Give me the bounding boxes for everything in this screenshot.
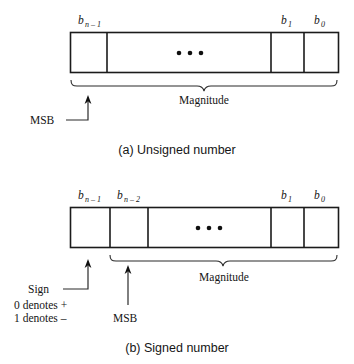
msb-pointer-signed: [125, 265, 132, 305]
bit-label-signed-b1-subscript: 1: [288, 195, 292, 204]
ellipsis-dot-signed-2: [207, 226, 212, 231]
bit-label-group-signed: b n – 1 b n – 2 b 1 b 0: [78, 189, 325, 204]
panel-unsigned-number: b n – 1 b 1 b 0 Magnit: [30, 14, 339, 157]
bit-label-signed-bn2-subscript: n – 2: [124, 195, 140, 204]
bit-label-bn1-subscript: n – 1: [85, 20, 101, 29]
bit-label-signed-b0-base: b: [314, 189, 320, 201]
ellipsis-dot-signed-3: [218, 226, 223, 231]
magnitude-label-unsigned: Magnitude: [179, 94, 229, 107]
sign-pointer-signed: [63, 259, 91, 289]
magnitude-label-signed: Magnitude: [199, 271, 249, 284]
msb-label-unsigned: MSB: [30, 114, 55, 126]
sign-leader-line-signed: [63, 266, 88, 289]
ellipsis-dot-2: [188, 51, 193, 56]
binary-number-format-figure: b n – 1 b 1 b 0 Magnit: [0, 0, 354, 364]
msb-leader-line-unsigned: [66, 102, 88, 120]
bit-label-signed-b0-subscript: 0: [321, 195, 325, 204]
bit-label-signed-bn1-subscript: n – 1: [85, 195, 101, 204]
bit-label-group-unsigned: b n – 1 b 1 b 0: [78, 14, 325, 29]
bit-label-signed-bn2-base: b: [117, 189, 123, 201]
bit-label-signed-b1-base: b: [281, 189, 287, 201]
sign-note-negative: 1 denotes –: [14, 312, 67, 324]
panel-caption-unsigned: (a) Unsigned number: [118, 143, 235, 157]
figure-canvas: b n – 1 b 1 b 0 Magnit: [0, 0, 354, 364]
msb-label-signed: MSB: [113, 312, 138, 324]
panel-caption-signed: (b) Signed number: [125, 341, 229, 355]
bit-label-bn1-base: b: [78, 14, 84, 26]
magnitude-brace-signed: [110, 255, 337, 266]
magnitude-brace-unsigned: [71, 80, 337, 91]
bit-label-signed-bn1-base: b: [78, 189, 84, 201]
ellipsis-dot-1: [177, 51, 182, 56]
ellipsis-dot-signed-1: [196, 226, 201, 231]
bit-label-b1-subscript: 1: [288, 20, 292, 29]
bit-field-box-signed: [71, 208, 339, 248]
sign-note-positive: 0 denotes +: [14, 299, 67, 311]
panel-signed-number: b n – 1 b n – 2 b 1 b 0: [14, 189, 339, 355]
msb-pointer-unsigned: [66, 95, 91, 120]
bit-label-b1-base: b: [281, 14, 287, 26]
bit-field-outline-unsigned: [71, 33, 339, 73]
bit-field-box-unsigned: [71, 33, 339, 73]
ellipsis-dot-3: [199, 51, 204, 56]
bit-label-b0-subscript: 0: [321, 20, 325, 29]
bit-label-b0-base: b: [314, 14, 320, 26]
sign-label-signed: Sign: [28, 283, 49, 296]
